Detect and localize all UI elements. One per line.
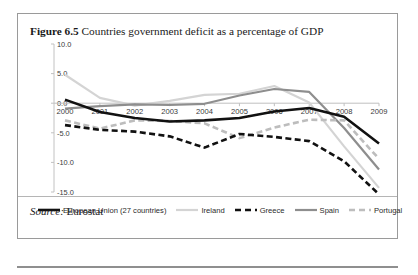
legend-swatch-icon	[295, 206, 317, 214]
x-axis-tick-label: 2005	[231, 107, 248, 116]
figure-title: Figure 6.5 Countries government deficit …	[30, 25, 386, 38]
legend-item: Ireland	[176, 206, 234, 215]
source-label: Source:	[30, 205, 64, 217]
x-axis-tick-label: 2003	[161, 107, 178, 116]
figure-number: Figure 6.5	[30, 25, 79, 37]
y-axis-tick-label: 5.0	[57, 69, 67, 78]
x-axis-tick-label: 2002	[126, 107, 143, 116]
x-axis-tick-label: 2009	[371, 107, 388, 116]
y-axis-tick-label: -10.0	[57, 158, 74, 167]
line-chart: 10.05.00.0-5.0-10.0-15.02000200120022003…	[18, 40, 397, 196]
figure-screenshot: Figure 6.5 Countries government deficit …	[0, 0, 418, 275]
legend-swatch-icon	[176, 206, 198, 214]
figure-box: Figure 6.5 Countries government deficit …	[17, 13, 398, 239]
y-axis-tick-label: -5.0	[57, 129, 70, 138]
legend-item-label: Spain	[320, 206, 339, 215]
chart-series-line	[65, 125, 379, 194]
figure-source: Source: Eurostat	[30, 205, 103, 217]
x-axis-tick-label: 2004	[196, 107, 213, 116]
y-axis-tick-label: 10.0	[57, 40, 71, 49]
source-value: Eurostat	[67, 205, 104, 217]
figure-caption: Countries government deficit as a percen…	[82, 25, 324, 37]
page-bottom-rule	[17, 266, 398, 268]
legend-swatch-icon	[235, 206, 257, 214]
legend-swatch-icon	[349, 206, 371, 214]
figure-divider	[18, 196, 397, 197]
legend-item: Portugal	[349, 206, 412, 215]
legend-item-label: Ireland	[201, 206, 224, 215]
y-axis-tick-label: -15.0	[57, 188, 74, 196]
legend-item: Greece	[235, 206, 295, 215]
legend-item: Spain	[295, 206, 349, 215]
legend-item-label: Greece	[260, 206, 285, 215]
chart-canvas: 10.05.00.0-5.0-10.0-15.02000200120022003…	[18, 40, 397, 196]
legend-item-label: Portugal	[374, 206, 402, 215]
